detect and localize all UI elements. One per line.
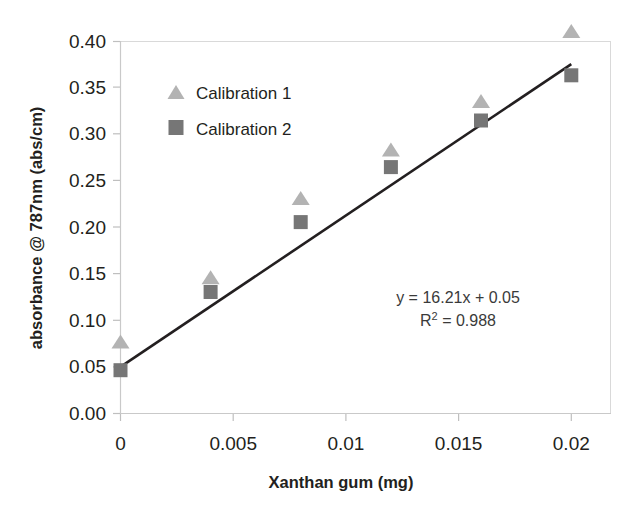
x-axis-ticks	[121, 414, 572, 421]
y-tick-label-3: 0.15	[69, 263, 106, 284]
y-tick-label-8: 0.40	[69, 31, 106, 52]
legend-label-calibration-1: Calibration 1	[196, 84, 291, 103]
data-point	[204, 285, 218, 299]
x-tick-label-4: 0.02	[553, 433, 590, 454]
trendline-r-squared-text: R2 = 0.988	[420, 310, 496, 329]
trendline-equation-text: y = 16.21x + 0.05	[396, 289, 520, 306]
x-tick-label-1: 0.005	[209, 433, 257, 454]
r-label: R	[420, 312, 432, 329]
y-axis-ticks	[113, 42, 120, 414]
y-axis-title: absorbance @ 787nm (abs/cm)	[27, 107, 45, 350]
x-tick-label-2: 0.01	[327, 433, 364, 454]
data-point	[474, 114, 488, 128]
legend-marker-square-icon	[169, 120, 184, 135]
data-point	[564, 68, 578, 82]
r-value: = 0.988	[438, 312, 496, 329]
y-tick-label-0: 0.00	[69, 403, 106, 424]
x-tick-label-0: 0	[115, 433, 126, 454]
x-tick-label-3: 0.015	[435, 433, 483, 454]
chart-container: 0.00 0.05 0.10 0.15 0.20 0.25 0.30 0.35 …	[0, 0, 637, 512]
y-tick-label-1: 0.05	[69, 356, 106, 377]
data-point	[114, 363, 128, 377]
y-tick-label-2: 0.10	[69, 310, 106, 331]
x-axis-title: Xanthan gum (mg)	[269, 473, 414, 491]
data-point	[294, 215, 308, 229]
plot-area-background	[120, 41, 611, 414]
y-tick-label-4: 0.20	[69, 217, 106, 238]
calibration-scatter-chart: 0.00 0.05 0.10 0.15 0.20 0.25 0.30 0.35 …	[0, 0, 637, 512]
y-tick-label-7: 0.35	[69, 77, 106, 98]
y-tick-label-5: 0.25	[69, 170, 106, 191]
data-point	[562, 24, 580, 38]
data-point	[384, 160, 398, 174]
legend-label-calibration-2: Calibration 2	[196, 120, 291, 139]
y-tick-label-6: 0.30	[69, 123, 106, 144]
